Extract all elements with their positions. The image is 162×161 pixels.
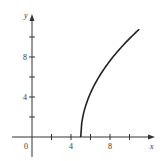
tick-labels: 4848 bbox=[23, 53, 112, 151]
plot-area: 4848 x y 0 bbox=[0, 0, 162, 161]
chart: 4848 x y 0 bbox=[0, 0, 162, 161]
ticks bbox=[29, 37, 130, 140]
data-curve bbox=[81, 29, 140, 137]
y-tick-label: 4 bbox=[23, 93, 27, 102]
y-axis-label: y bbox=[23, 11, 28, 20]
x-axis-label: x bbox=[149, 142, 154, 151]
x-tick-label: 8 bbox=[108, 142, 112, 151]
x-axis-arrow-icon bbox=[148, 135, 155, 140]
origin-label: 0 bbox=[24, 142, 28, 151]
y-tick-label: 8 bbox=[23, 53, 27, 62]
y-axis-arrow-icon bbox=[30, 14, 35, 21]
x-tick-label: 4 bbox=[69, 142, 73, 151]
